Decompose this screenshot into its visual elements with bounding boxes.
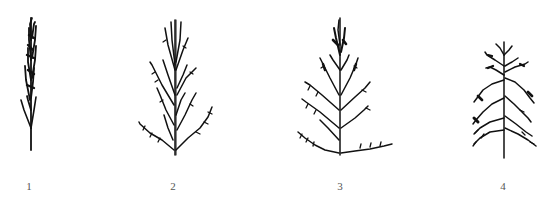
form-label-1: 1: [19, 180, 39, 192]
plant-form-4-drawing: [473, 42, 536, 158]
plant-forms-figure: 1 2 3 4: [0, 0, 540, 207]
plant-form-3-drawing: [298, 18, 392, 155]
form-label-3: 3: [330, 180, 350, 192]
plant-drawings: [0, 0, 540, 207]
form-label-2: 2: [163, 180, 183, 192]
plant-form-2-drawing: [139, 20, 212, 155]
plant-form-1-drawing: [21, 18, 36, 150]
form-label-4: 4: [493, 180, 513, 192]
